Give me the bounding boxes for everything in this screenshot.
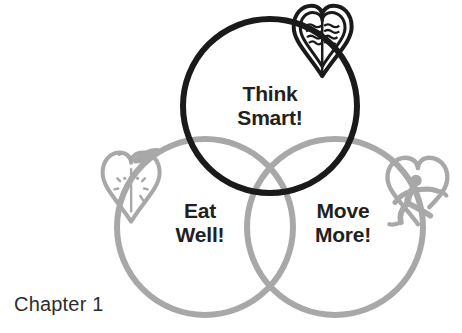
label-move-more: Move More! bbox=[288, 199, 398, 247]
label-think-smart: Think Smart! bbox=[218, 82, 322, 130]
chapter-caption: Chapter 1 bbox=[14, 293, 104, 316]
venn-circles-svg bbox=[0, 0, 462, 333]
brain-heart-icon bbox=[294, 6, 352, 76]
venn-diagram-figure: Think Smart! Eat Well! Move More! Chapte… bbox=[0, 0, 462, 333]
label-eat-well: Eat Well! bbox=[148, 199, 252, 247]
